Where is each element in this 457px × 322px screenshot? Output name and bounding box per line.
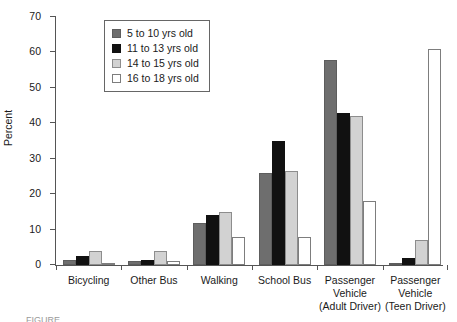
figure-caption: FIGURE bbox=[26, 315, 60, 322]
bar bbox=[76, 256, 89, 265]
x-axis-line bbox=[55, 265, 443, 266]
legend-item-label: 11 to 13 yrs old bbox=[127, 43, 198, 54]
bar bbox=[89, 251, 102, 265]
y-axis-tick-label: 40 bbox=[29, 117, 41, 128]
legend-item-label: 16 to 18 yrs old bbox=[127, 73, 199, 84]
x-axis-category-label-line: Walking bbox=[201, 274, 238, 287]
bar bbox=[259, 173, 272, 265]
x-axis-category-label-line: Passenger bbox=[319, 274, 381, 287]
x-axis-category-label-line: School Bus bbox=[258, 274, 311, 287]
x-axis-tick bbox=[317, 265, 318, 270]
bar bbox=[324, 60, 337, 265]
y-axis-tick-label: 60 bbox=[29, 46, 41, 57]
bar bbox=[402, 258, 415, 265]
x-axis-category-label-line: (Teen Driver) bbox=[385, 300, 446, 313]
bar bbox=[337, 113, 350, 265]
legend-item-label: 5 to 10 yrs old bbox=[127, 28, 193, 39]
x-axis-category-label: School Bus bbox=[258, 274, 311, 287]
bar-group-bars bbox=[383, 17, 448, 265]
x-axis-tick bbox=[187, 265, 188, 270]
bar bbox=[350, 116, 363, 265]
legend-item-label: 14 to 15 yrs old bbox=[127, 58, 199, 69]
x-axis-category-label-line: Vehicle bbox=[385, 287, 446, 300]
y-axis-tick-label: 70 bbox=[29, 11, 41, 22]
bar bbox=[193, 223, 206, 266]
x-axis-category-label: Other Bus bbox=[130, 274, 177, 287]
x-axis-tick bbox=[56, 265, 57, 270]
x-axis-tick bbox=[447, 265, 448, 270]
x-axis-category-label: Bicycling bbox=[68, 274, 109, 287]
bar bbox=[154, 251, 167, 265]
y-axis-tick-label: 50 bbox=[29, 82, 41, 93]
x-axis-tick bbox=[121, 265, 122, 270]
bar bbox=[415, 240, 428, 265]
bar bbox=[363, 201, 376, 265]
bar bbox=[206, 215, 219, 265]
x-axis-category-label-line: (Adult Driver) bbox=[319, 300, 381, 313]
y-axis-tick-label: 20 bbox=[29, 188, 41, 199]
legend-item[interactable]: 14 to 15 yrs old bbox=[112, 56, 199, 71]
y-axis-title: Percent bbox=[3, 110, 14, 146]
legend-swatch-icon bbox=[112, 74, 121, 83]
bar bbox=[141, 260, 154, 265]
legend: 5 to 10 yrs old11 to 13 yrs old14 to 15 … bbox=[104, 20, 210, 92]
x-axis-category-label-line: Bicycling bbox=[68, 274, 109, 287]
legend-item[interactable]: 5 to 10 yrs old bbox=[112, 26, 199, 41]
x-axis-category-label-line: Other Bus bbox=[130, 274, 177, 287]
x-axis-category-label-line: Vehicle bbox=[319, 287, 381, 300]
bar-group-bars bbox=[252, 17, 317, 265]
legend-swatch-icon bbox=[112, 59, 121, 68]
bar bbox=[285, 171, 298, 265]
bar bbox=[298, 237, 311, 265]
y-axis-tick-label: 30 bbox=[29, 152, 41, 163]
x-axis-tick bbox=[252, 265, 253, 270]
bar-chart-figure: Percent 010203040506070 BicyclingOther B… bbox=[0, 0, 457, 322]
bar bbox=[389, 263, 402, 265]
bar bbox=[63, 260, 76, 265]
y-axis-tick-label: 0 bbox=[35, 259, 41, 270]
bar-group: School Bus bbox=[252, 17, 317, 265]
x-axis-tick bbox=[383, 265, 384, 270]
bar bbox=[167, 261, 180, 265]
bar bbox=[102, 263, 115, 265]
x-axis-category-label: PassengerVehicle(Teen Driver) bbox=[385, 274, 446, 313]
bar-group: PassengerVehicle(Teen Driver) bbox=[383, 17, 448, 265]
legend-swatch-icon bbox=[112, 29, 121, 38]
bar-group-bars bbox=[317, 17, 382, 265]
legend-item[interactable]: 11 to 13 yrs old bbox=[112, 41, 199, 56]
bar bbox=[272, 141, 285, 265]
bar bbox=[428, 49, 441, 265]
bar bbox=[128, 261, 141, 265]
x-axis-category-label: Walking bbox=[201, 274, 238, 287]
bar bbox=[232, 237, 245, 265]
y-axis-tick-label: 10 bbox=[29, 223, 41, 234]
legend-swatch-icon bbox=[112, 44, 121, 53]
bar bbox=[219, 212, 232, 265]
x-axis-category-label-line: Passenger bbox=[385, 274, 446, 287]
bar-group: PassengerVehicle(Adult Driver) bbox=[317, 17, 382, 265]
legend-item[interactable]: 16 to 18 yrs old bbox=[112, 71, 199, 86]
x-axis-category-label: PassengerVehicle(Adult Driver) bbox=[319, 274, 381, 313]
